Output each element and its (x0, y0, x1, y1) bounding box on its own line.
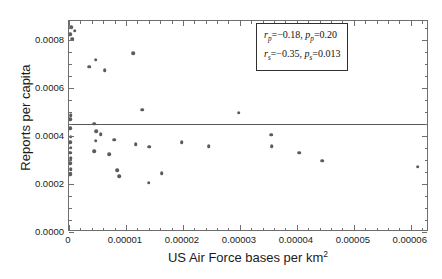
x-axis-tick-label: 0.00002 (165, 234, 199, 245)
x-axis-tick-label: 0.00006 (393, 234, 427, 245)
data-point (269, 133, 273, 137)
data-point (297, 151, 301, 155)
x-axis-tick-label: 0 (65, 234, 70, 245)
data-point (69, 32, 72, 36)
data-point (112, 138, 116, 142)
y-axis-minor-tick (425, 76, 428, 77)
x-axis-minor-tick (331, 228, 332, 231)
x-axis-minor-tick (115, 228, 116, 231)
x-axis-tick (126, 225, 127, 230)
x-axis-minor-tick (80, 228, 81, 231)
spearman-p-value: =0.013 (312, 48, 340, 59)
x-axis-minor-tick (377, 228, 378, 231)
plot-area (69, 21, 427, 230)
x-axis-minor-tick (263, 228, 264, 231)
data-point (270, 145, 274, 149)
x-axis-tick (69, 21, 70, 26)
data-point (320, 159, 324, 163)
y-axis-minor-tick (69, 124, 72, 125)
x-axis-tick (69, 225, 70, 230)
x-axis-minor-tick (342, 228, 343, 231)
pearson-r-value: =−0.18, (272, 29, 303, 40)
x-axis-minor-tick (217, 228, 218, 231)
y-axis-tick (422, 88, 427, 89)
x-axis-minor-tick (308, 228, 309, 231)
data-point (87, 65, 91, 69)
x-axis-minor-tick (149, 228, 150, 231)
y-axis-minor-tick (69, 148, 72, 149)
data-point (103, 68, 107, 72)
y-axis-minor-tick (69, 208, 72, 209)
y-axis-minor-tick (425, 124, 428, 125)
y-axis-minor-tick (69, 172, 72, 173)
x-axis-minor-tick (377, 21, 378, 24)
pearson-p-value: =0.20 (314, 29, 337, 40)
x-axis-title-exponent: 2 (323, 249, 328, 259)
data-point (134, 142, 138, 146)
x-axis-minor-tick (285, 228, 286, 231)
data-point (148, 145, 152, 149)
x-axis-tick (240, 225, 241, 230)
y-axis-tick (69, 184, 74, 185)
x-axis-tick-label: 0.00005 (336, 234, 370, 245)
x-axis-minor-tick (365, 21, 366, 24)
y-axis-minor-tick (425, 172, 428, 173)
stats-line-pearson: rp=−0.18, pp=0.20 (264, 28, 340, 47)
x-axis-minor-tick (137, 21, 138, 24)
x-axis-minor-tick (388, 228, 389, 231)
x-axis-minor-tick (365, 228, 366, 231)
scatter-plot-figure: Reports per capita 0.00000.00020.00040.0… (0, 0, 442, 279)
y-axis-tick (422, 40, 427, 41)
y-axis-minor-tick (69, 160, 72, 161)
y-axis-tick-label: 0.0008 (35, 34, 64, 45)
x-axis-tick (411, 225, 412, 230)
x-axis-minor-tick (206, 21, 207, 24)
y-axis-minor-tick (69, 52, 72, 53)
y-axis-minor-tick (69, 196, 72, 197)
y-axis-minor-tick (69, 64, 72, 65)
x-axis-tick-label: 0.00003 (222, 234, 256, 245)
data-point (69, 167, 73, 171)
y-axis-tick (69, 136, 74, 137)
y-axis-minor-tick (425, 160, 428, 161)
y-axis-minor-tick (425, 112, 428, 113)
x-axis-minor-tick (422, 21, 423, 24)
data-point (147, 181, 151, 185)
data-point (69, 127, 72, 131)
stats-line-spearman: rs=−0.35, ps=0.013 (264, 47, 340, 66)
y-axis-minor-tick (425, 196, 428, 197)
x-axis-tick (183, 21, 184, 26)
y-axis-tick-labels: 0.00000.00020.00040.00060.0008 (0, 0, 64, 279)
y-axis-tick (69, 88, 74, 89)
x-axis-minor-tick (149, 21, 150, 24)
x-axis-tick (183, 225, 184, 230)
y-axis-tick (69, 232, 74, 233)
x-axis-minor-tick (399, 21, 400, 24)
y-axis-tick (422, 232, 427, 233)
x-axis-minor-tick (251, 228, 252, 231)
data-point (94, 139, 98, 143)
data-point (69, 151, 72, 155)
x-axis-minor-tick (160, 228, 161, 231)
x-axis-minor-tick (115, 21, 116, 24)
data-point (180, 141, 184, 145)
y-axis-minor-tick (425, 52, 428, 53)
y-axis-minor-tick (425, 148, 428, 149)
y-axis-minor-tick (69, 112, 72, 113)
y-axis-tick-label: 0.0002 (35, 178, 64, 189)
y-axis-tick-label: 0.0004 (35, 130, 64, 141)
x-axis-tick (297, 225, 298, 230)
x-axis-minor-tick (80, 21, 81, 24)
stats-legend-box: rp=−0.18, pp=0.20 rs=−0.35, ps=0.013 (256, 23, 348, 71)
plot-frame (68, 20, 428, 231)
data-point (69, 141, 72, 145)
spearman-r-value: =−0.35, (271, 48, 302, 59)
y-axis-minor-tick (425, 28, 428, 29)
y-axis-tick (69, 40, 74, 41)
data-point (132, 52, 136, 56)
y-axis-tick (422, 184, 427, 185)
data-point (160, 172, 164, 176)
data-point (99, 132, 103, 136)
x-axis-minor-tick (103, 228, 104, 231)
data-point (416, 165, 420, 169)
